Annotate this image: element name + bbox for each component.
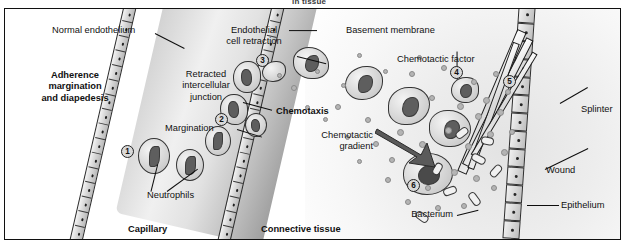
label-capillary: Capillary [128, 224, 167, 235]
chemotactic-gradient-arrow [375, 127, 445, 171]
step-marker-3: 3 [256, 54, 269, 67]
step-marker-2: 2 [215, 113, 228, 126]
label-normal-endothelium: Normal endothelium [52, 25, 135, 36]
label-wound: Wound [546, 165, 575, 176]
label-chemotactic-gradient: Chemotactic gradient [297, 130, 373, 153]
label-retracted-intercellular-junction: Retracted intercellular junction [169, 69, 243, 103]
label-adherence-process: Adherence margination and diapedesis [19, 70, 131, 104]
label-endothelial-cell-retraction: Endothelial cell retraction [210, 25, 298, 48]
label-chemotactic-factor: Chemotactic factor [397, 54, 475, 65]
neutrophil-lumen-2 [176, 149, 204, 181]
leader-epithelium [527, 205, 559, 206]
label-bacterium: Bacterium [391, 209, 453, 220]
label-margination: Margination [165, 123, 214, 134]
step-marker-6: 6 [407, 179, 420, 192]
step-marker-4: 4 [450, 66, 463, 79]
step-marker-5: 5 [503, 75, 516, 88]
running-head: in tissue [292, 0, 326, 4]
neutrophil-lumen-1 [138, 138, 170, 174]
label-connective-tissue: Connective tissue [261, 224, 341, 235]
inflammation-diagram: in tissue [0, 0, 626, 245]
label-epithelium: Epithelium [561, 200, 604, 211]
step-marker-1: 1 [121, 145, 134, 158]
label-basement-membrane: Basement membrane [346, 25, 435, 36]
label-neutrophils: Neutrophils [147, 190, 194, 201]
label-splinter: Splinter [581, 104, 613, 115]
figure-frame: 1 2 3 4 5 6 Normal endothelium Endotheli… [4, 8, 621, 240]
label-chemotaxis: Chemotaxis [276, 106, 329, 117]
